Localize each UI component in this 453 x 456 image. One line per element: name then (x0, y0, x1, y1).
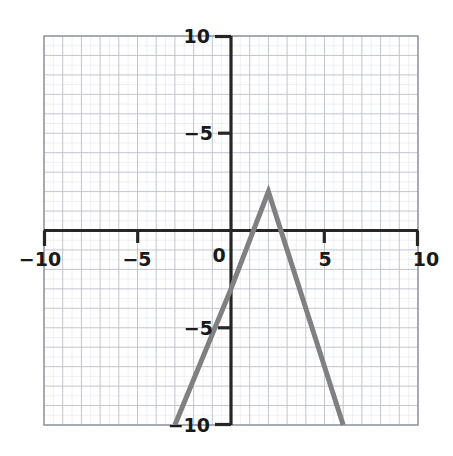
y-tick-label-10: 10 (184, 25, 210, 47)
chart-container: −10 −5 0 5 10 10 −5 −5 −10 (0, 0, 453, 456)
x-tick-label-neg10: −10 (19, 248, 61, 270)
coordinate-plane-chart: −10 −5 0 5 10 10 −5 −5 −10 (0, 0, 453, 456)
x-tick-label-5: 5 (318, 248, 331, 270)
chart-background (0, 0, 453, 456)
y-tick-label-neg10: −10 (168, 414, 210, 436)
x-tick-label-neg5: −5 (122, 248, 151, 270)
y-tick-label-neg5: −5 (184, 317, 213, 339)
x-tick-label-10: 10 (413, 248, 439, 270)
y-tick-label-5: −5 (184, 122, 213, 144)
x-tick-label-origin: 0 (212, 244, 225, 266)
